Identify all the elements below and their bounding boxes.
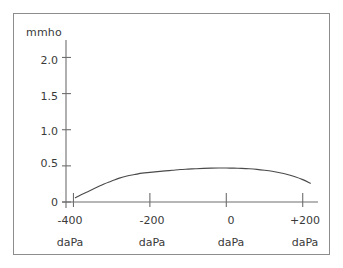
plot-area <box>0 0 343 268</box>
tympanogram-screenshot: mmho 2.0 1.5 1.0 0.5 0 -400 daPa -200 da… <box>0 0 343 268</box>
axes <box>62 40 318 208</box>
x-axis-ticks <box>73 193 302 207</box>
tympanogram-curve-path <box>75 168 310 198</box>
tympanogram-curve <box>75 168 310 198</box>
